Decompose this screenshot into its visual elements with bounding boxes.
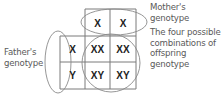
mother-label-line: Mother's xyxy=(150,2,189,13)
mother-genotype-label: Mother's genotype xyxy=(150,2,189,23)
mother-allele-1: X xyxy=(94,18,101,29)
offspring-label-line: The four possible xyxy=(150,27,221,38)
father-genotype-label: Father's genotype xyxy=(4,47,43,68)
father-allele-1: X xyxy=(69,44,76,55)
mother-genotype-ellipse xyxy=(81,9,147,35)
offspring-cell: XX xyxy=(116,44,130,55)
offspring-cell: XY xyxy=(91,70,105,81)
offspring-label-line: offspring xyxy=(150,48,221,59)
father-allele-2: Y xyxy=(69,70,76,81)
offspring-genotype-circle xyxy=(82,34,140,92)
mother-allele-2: X xyxy=(120,18,127,29)
offspring-genotype-label: The four possible combinations of offspr… xyxy=(150,27,221,69)
offspring-cell: XX xyxy=(91,44,105,55)
offspring-label-line: combinations of xyxy=(150,38,221,49)
mother-label-line: genotype xyxy=(150,13,189,24)
father-label-line: Father's xyxy=(4,47,43,58)
offspring-label-line: genotype xyxy=(150,59,221,70)
offspring-cell: XY xyxy=(116,70,130,81)
father-label-line: genotype xyxy=(4,58,43,69)
